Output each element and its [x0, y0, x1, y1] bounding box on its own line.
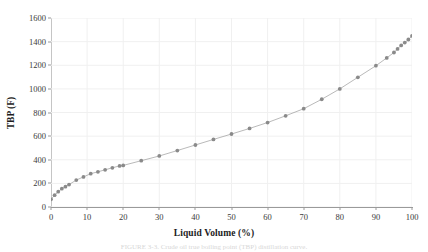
x-tick-label: 10: [83, 212, 92, 222]
data-point: [139, 159, 143, 163]
y-tick-mark: [48, 159, 51, 160]
data-point: [67, 183, 71, 187]
y-tick-mark: [48, 136, 51, 137]
x-tick-label: 90: [372, 212, 381, 222]
x-tick-mark: [51, 207, 52, 210]
data-point: [175, 149, 179, 153]
x-tick-label: 40: [191, 212, 200, 222]
y-tick-label: 800: [8, 108, 46, 118]
data-point: [212, 138, 216, 142]
x-tick-mark: [231, 207, 232, 210]
x-tick-label: 30: [155, 212, 164, 222]
figure-container: TBP (F) 02004006008001000120014001600010…: [0, 0, 428, 252]
data-point: [374, 64, 378, 68]
y-tick-mark: [48, 18, 51, 19]
data-point: [56, 190, 60, 194]
x-tick-mark: [267, 207, 268, 210]
data-point: [302, 107, 306, 111]
x-tick-mark: [87, 207, 88, 210]
y-tick-mark: [48, 112, 51, 113]
data-point: [64, 185, 68, 189]
x-tick-mark: [159, 207, 160, 210]
data-point: [89, 172, 93, 176]
data-point: [96, 170, 100, 174]
x-tick-mark: [123, 207, 124, 210]
y-tick-label: 0: [8, 202, 46, 212]
series-line: [51, 36, 412, 199]
x-tick-label: 70: [299, 212, 308, 222]
x-tick-label: 100: [406, 212, 419, 222]
x-tick-label: 20: [119, 212, 128, 222]
x-tick-mark: [195, 207, 196, 210]
x-tick-label: 50: [227, 212, 236, 222]
data-point: [82, 175, 86, 179]
data-point: [399, 44, 403, 48]
data-point: [392, 51, 396, 55]
data-series-tbp: [51, 18, 412, 207]
y-tick-label: 1000: [8, 84, 46, 94]
data-point: [248, 127, 252, 131]
x-tick-mark: [339, 207, 340, 210]
data-point: [284, 114, 288, 118]
y-tick-mark: [48, 41, 51, 42]
y-tick-mark: [48, 65, 51, 66]
data-point: [385, 56, 389, 60]
plot-area: [51, 18, 412, 207]
x-tick-label: 0: [49, 212, 53, 222]
data-point: [74, 178, 78, 182]
y-tick-label: 1600: [8, 13, 46, 23]
data-point: [403, 41, 407, 45]
x-axis-line: [51, 207, 413, 208]
data-point: [118, 164, 122, 168]
data-point: [230, 132, 234, 136]
data-point: [396, 47, 400, 51]
data-point: [121, 164, 125, 168]
y-tick-mark: [48, 183, 51, 184]
figure-caption: FIGURE 3-3. Crude oil true boiling point…: [0, 243, 428, 251]
data-point: [356, 75, 360, 79]
data-point: [338, 87, 342, 91]
x-tick-mark: [412, 207, 413, 210]
x-tick-mark: [375, 207, 376, 210]
y-tick-label: 200: [8, 178, 46, 188]
y-tick-mark: [48, 88, 51, 89]
x-tick-label: 60: [263, 212, 272, 222]
data-point: [103, 168, 107, 172]
data-point: [53, 193, 57, 197]
data-point: [266, 121, 270, 125]
data-point: [60, 187, 64, 191]
data-point: [320, 97, 324, 101]
x-tick-mark: [303, 207, 304, 210]
y-tick-label: 1200: [8, 60, 46, 70]
y-tick-label: 400: [8, 155, 46, 165]
data-point: [406, 38, 410, 42]
data-point: [157, 154, 161, 158]
data-point: [110, 166, 114, 170]
x-tick-label: 80: [336, 212, 345, 222]
x-axis-title: Liquid Volume (%): [0, 228, 428, 238]
data-point: [194, 143, 198, 147]
y-tick-label: 1400: [8, 37, 46, 47]
y-tick-label: 600: [8, 131, 46, 141]
